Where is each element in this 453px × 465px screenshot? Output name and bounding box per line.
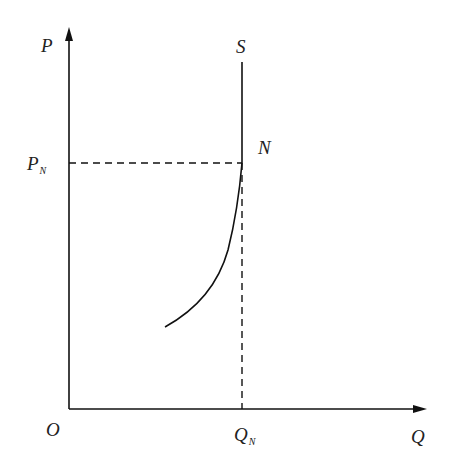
point-n-label: N	[257, 137, 272, 158]
x-axis-label: Q	[411, 426, 425, 447]
y-axis-label: P	[40, 35, 53, 56]
supply-curve-label: S	[236, 36, 246, 57]
supply-curve	[165, 163, 242, 327]
y-axis-arrow-icon	[65, 27, 73, 41]
price-level-label: PN	[26, 153, 48, 176]
x-axis-arrow-icon	[413, 405, 427, 413]
quantity-level-label: QN	[234, 424, 257, 447]
origin-label: O	[46, 419, 60, 440]
supply-diagram: P S N PN O QN Q	[0, 0, 453, 465]
